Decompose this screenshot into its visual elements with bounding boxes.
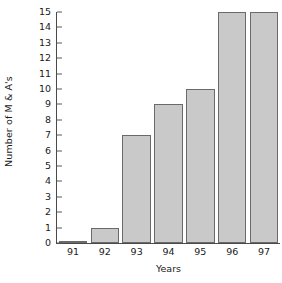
y-tick-mark (57, 212, 62, 213)
y-tick-label: 13 (17, 38, 51, 48)
y-tick-mark (57, 150, 62, 151)
y-axis-tick-labels: 0123456789101112131415 (17, 12, 51, 243)
y-tick-label: 8 (17, 115, 51, 125)
y-tick-mark (57, 42, 62, 43)
x-tick-label: 93 (131, 247, 143, 257)
y-tick-mark (57, 166, 62, 167)
y-tick-mark (57, 119, 62, 120)
y-tick-label: 14 (17, 23, 51, 33)
y-tick-label: 6 (17, 146, 51, 156)
y-tick-mark (57, 227, 62, 228)
y-tick-mark (57, 89, 62, 90)
x-tick-label: 91 (67, 247, 79, 257)
bar-93 (122, 135, 150, 243)
y-axis-title-text: Number of M & A's (3, 76, 14, 167)
x-tick-label: 95 (194, 247, 206, 257)
x-axis-line (56, 243, 280, 244)
bar-chart-figure: Number of M & A's 0123456789101112131415… (0, 0, 282, 283)
bar-96 (218, 12, 246, 243)
x-axis-tick-labels: 91929394959697 (57, 247, 280, 261)
y-tick-mark (57, 135, 62, 136)
y-tick-mark (57, 58, 62, 59)
y-tick-mark (57, 104, 62, 105)
y-tick-label: 5 (17, 161, 51, 171)
plot-area (57, 12, 280, 243)
y-tick-label: 15 (17, 7, 51, 17)
bar-92 (91, 228, 119, 243)
y-tick-label: 4 (17, 177, 51, 187)
y-tick-mark (57, 73, 62, 74)
bar-95 (186, 89, 214, 243)
y-tick-mark (57, 243, 62, 244)
x-tick-label: 97 (258, 247, 270, 257)
x-tick-label: 96 (226, 247, 238, 257)
y-tick-label: 9 (17, 100, 51, 110)
bar-94 (154, 104, 182, 243)
bar-91 (59, 241, 87, 243)
y-tick-mark (57, 196, 62, 197)
y-tick-label: 11 (17, 69, 51, 79)
y-tick-mark (57, 27, 62, 28)
x-tick-label: 92 (99, 247, 111, 257)
y-tick-label: 2 (17, 207, 51, 217)
x-axis-title: Years (57, 263, 280, 274)
y-tick-mark (57, 12, 62, 13)
y-axis-title: Number of M & A's (0, 0, 16, 243)
y-tick-label: 1 (17, 223, 51, 233)
x-tick-label: 94 (162, 247, 174, 257)
y-tick-mark (57, 181, 62, 182)
y-tick-label: 0 (17, 238, 51, 248)
bar-97 (250, 12, 278, 243)
y-tick-label: 7 (17, 130, 51, 140)
y-tick-label: 3 (17, 192, 51, 202)
y-tick-label: 12 (17, 53, 51, 63)
y-tick-label: 10 (17, 84, 51, 94)
